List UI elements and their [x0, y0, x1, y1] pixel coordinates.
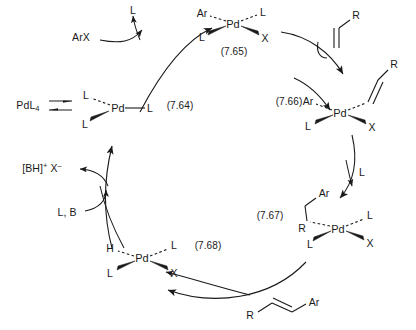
arrow-l-in-mid [346, 160, 352, 186]
complex-766-ligand-upper-left: Ar [303, 96, 314, 107]
complex-766-metal: Pd [333, 108, 347, 119]
ligand-in-mid-label: L [359, 167, 365, 178]
equation-label-764: (7.64) [167, 101, 194, 111]
arrow-l-out-top [133, 16, 140, 40]
complex-767-metal: Pd [331, 224, 345, 235]
product-left-label: R [246, 310, 254, 321]
equation-label-765: (7.65) [221, 47, 248, 57]
complex-768-ligand-lower-left: L [107, 268, 113, 279]
alkene-substrate-bonds [334, 20, 350, 48]
complex-766-alkene-r-label: R [390, 59, 398, 70]
complex-764-ligand-upper-left: L [83, 90, 89, 101]
alkene-substrate-label: R [352, 10, 360, 21]
precatalyst-label: PdL4 [16, 100, 39, 113]
equation-label-767: (7.67) [257, 211, 284, 221]
complex-765-ligand-upper-left: Ar [197, 8, 208, 19]
product-right-label: Ar [309, 297, 320, 308]
complex-768-ligand-upper-right: L [171, 240, 177, 251]
complex-765-metal: Pd [226, 19, 240, 30]
arrow-arx-in [100, 30, 142, 42]
complex-767-ligand-upper-right: L [367, 210, 373, 221]
complex-767-ligand-lower-right: X [366, 238, 373, 249]
arrow-beta-hydride [168, 262, 306, 298]
feeder-arrows [80, 16, 352, 248]
equation-label-768: (7.68) [195, 241, 222, 251]
equation-label-766: (7.66) [276, 97, 303, 107]
arrow-into-hydride [166, 272, 250, 295]
base-label: L, B [57, 207, 76, 218]
complex-765-ligand-lower-right: X [261, 33, 268, 44]
arrow-base-in [85, 190, 106, 211]
arrow-reductive-elimination [105, 146, 112, 248]
complex-767-bonds [305, 198, 364, 241]
product-alkene-bonds [258, 298, 306, 312]
complex-766-bonds [315, 70, 388, 124]
arx-label: ArX [72, 32, 90, 43]
complex-767-ligand-lower-left: L [307, 239, 313, 250]
complex-768-ligand-lower-right: X [170, 268, 177, 279]
complex-768-metal: Pd [135, 253, 149, 264]
complex-764-ligand-right: L [147, 103, 153, 114]
complex-765-ligand-lower-left: L [199, 32, 205, 43]
reaction-scheme-figure: PdL4 L L Pd L (7.64) ArX L Ar L Pd L X (… [0, 0, 416, 330]
arrow-salt-out [80, 169, 108, 186]
complex-765-ligand-upper-right: L [260, 7, 266, 18]
complex-767-aryl-tip-label: Ar [319, 188, 330, 199]
scheme-canvas [0, 0, 416, 330]
arrow-hydride-to-base [100, 186, 124, 248]
complex-768-hydride-label: H [106, 243, 114, 254]
ligand-out-top-label: L [130, 5, 136, 16]
complex-766-ligand-lower-right: X [368, 122, 375, 133]
equilibrium-arrow [49, 101, 72, 110]
complex-764-ligand-lower-left: L [82, 119, 88, 130]
complex-764-metal: Pd [111, 103, 125, 114]
complex-766-ligand-lower-left: L [305, 121, 311, 132]
complex-767-alkyl-r-label: R [298, 223, 306, 234]
ammonium-salt-label: [BH]+ X– [22, 162, 62, 174]
